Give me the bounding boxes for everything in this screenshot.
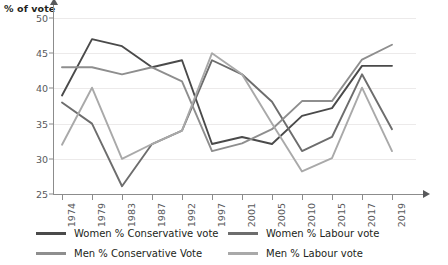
- series-line: [62, 39, 392, 144]
- y-axis-arrow-icon: [50, 0, 58, 5]
- x-tick-mark: [92, 194, 93, 200]
- plot-area: 253035404550 197419791983198719921997200…: [54, 18, 416, 194]
- legend-item-women-conservative: Women % Conservative vote: [36, 228, 219, 239]
- legend-item-men-labour: Men % Labour vote: [228, 248, 363, 259]
- x-tick-label: 1992: [186, 203, 197, 227]
- x-tick-label: 2010: [306, 203, 317, 227]
- x-tick-mark: [122, 194, 123, 200]
- x-tick-label: 1979: [96, 203, 107, 227]
- x-tick-mark: [392, 194, 393, 200]
- x-tick-mark: [182, 194, 183, 200]
- x-tick-label: 2015: [336, 203, 347, 227]
- x-tick-mark: [362, 194, 363, 200]
- legend-label: Women % Conservative vote: [74, 228, 219, 239]
- series-lines: [54, 18, 416, 194]
- legend-swatch-icon: [36, 232, 66, 235]
- x-tick-mark: [152, 194, 153, 200]
- x-tick-label: 1974: [66, 203, 77, 227]
- y-tick-label: 30: [36, 153, 48, 164]
- x-tick-mark: [212, 194, 213, 200]
- x-tick-label: 1983: [126, 203, 137, 227]
- x-tick-label: 1987: [156, 203, 167, 227]
- x-tick-mark: [272, 194, 273, 200]
- legend-label: Women % Labour vote: [266, 228, 379, 239]
- series-line: [62, 60, 392, 186]
- legend-label: Men % Conservative Vote: [74, 248, 202, 259]
- x-tick-mark: [332, 194, 333, 200]
- x-tick-mark: [302, 194, 303, 200]
- y-tick-label: 35: [36, 118, 48, 129]
- y-tick-label: 25: [36, 189, 48, 200]
- x-tick-mark: [62, 194, 63, 200]
- y-tick-label: 45: [36, 48, 48, 59]
- y-tick-label: 50: [36, 13, 48, 24]
- legend-item-women-labour: Women % Labour vote: [228, 228, 379, 239]
- line-chart: % of vote 253035404550 19741979198319871…: [0, 0, 448, 265]
- x-tick-label: 2001: [246, 203, 257, 227]
- legend-swatch-icon: [36, 252, 66, 255]
- x-tick-label: 2017: [366, 203, 377, 227]
- y-tick-label: 40: [36, 83, 48, 94]
- legend-label: Men % Labour vote: [266, 248, 363, 259]
- legend-swatch-icon: [228, 232, 258, 235]
- x-tick-label: 2019: [396, 203, 407, 227]
- legend-swatch-icon: [228, 252, 258, 255]
- x-tick-label: 2005: [276, 203, 287, 227]
- legend-item-men-conservative: Men % Conservative Vote: [36, 248, 202, 259]
- x-axis-arrow-icon: [423, 190, 430, 198]
- chart-legend: Women % Conservative vote Women % Labour…: [30, 228, 448, 265]
- x-tick-label: 1997: [216, 203, 227, 227]
- x-tick-mark: [242, 194, 243, 200]
